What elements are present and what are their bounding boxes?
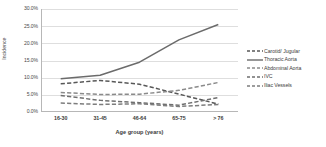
series-line [61,80,219,104]
legend-swatch-icon [247,65,263,71]
legend-item[interactable]: Abdominal Aorta [247,64,325,73]
series-line [61,24,219,78]
series-line [61,103,219,106]
legend-swatch-icon [247,74,263,80]
x-axis-title: Age group (years) [41,130,238,136]
x-axis-tick-label: 65-75 [159,116,199,121]
legend-item[interactable]: IVC [247,73,325,82]
legend-item[interactable]: Iliac Vessels [247,81,325,90]
legend-item-label: Carotid/ Jugular [263,49,300,54]
x-axis-tick-label: 31-45 [80,116,120,121]
incidence-by-age-line-chart: Incidence 0.0%5.0%10.0%15.0%20.0%25.0%30… [0,0,326,147]
legend-swatch-icon [247,48,263,54]
legend-item-label: Abdominal Aorta [263,66,301,71]
x-axis-tick-label: > 76 [198,116,238,121]
legend-item-label: IVC [263,74,273,79]
legend-item[interactable]: Thoracic Aorta [247,56,325,65]
legend-swatch-icon [247,83,263,89]
legend-item-label: Iliac Vessels [263,83,292,88]
x-axis-tick-label: 16-30 [41,116,81,121]
legend-item[interactable]: Carotid/ Jugular [247,47,325,56]
legend-swatch-icon [247,57,263,63]
chart-legend: Carotid/ JugularThoracic AortaAbdominal … [247,47,325,90]
legend-item-label: Thoracic Aorta [263,57,297,62]
x-axis-tick-label: 46-64 [120,116,160,121]
